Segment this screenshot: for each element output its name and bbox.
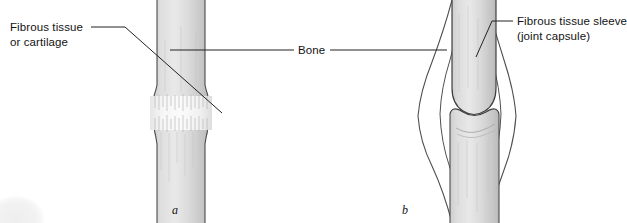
panel-a-artwork: [150, 0, 212, 223]
label-fibrous-sleeve-line2: (joint capsule): [517, 29, 627, 44]
anatomy-figure: Fibrous tissue or cartilage Bone Fibrous…: [0, 0, 627, 223]
label-fibrous-sleeve-line1: Fibrous tissue sleeve: [517, 14, 627, 29]
label-fibrous-tissue-sleeve: Fibrous tissue sleeve (joint capsule): [517, 14, 627, 43]
label-fibrous-tissue-line2: or cartilage: [10, 35, 83, 50]
panel-letter-a: a: [172, 203, 178, 218]
panel-b-upper-bone: [452, 0, 496, 115]
panel-b-artwork: [418, 0, 516, 223]
panel-letter-b: b: [402, 203, 408, 218]
panel-b-lower-bone: [450, 109, 499, 223]
corner-watermark: [0, 196, 44, 223]
label-bone: Bone: [298, 43, 325, 58]
label-fibrous-tissue-line1: Fibrous tissue: [10, 20, 83, 35]
label-fibrous-tissue-or-cartilage: Fibrous tissue or cartilage: [10, 20, 83, 49]
